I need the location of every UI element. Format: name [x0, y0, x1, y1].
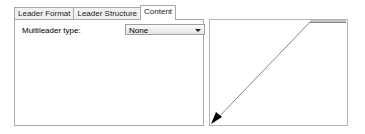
content-tab-panel: Multileader type: None — [14, 19, 204, 126]
multileader-type-select[interactable]: None — [125, 24, 205, 35]
chevron-down-icon — [195, 29, 201, 32]
multileader-type-label: Multileader type: — [22, 26, 81, 35]
multileader-type-value: None — [129, 26, 148, 35]
leader-arrow-icon — [210, 20, 347, 125]
leader-preview — [209, 19, 348, 126]
tab-strip: Leader Format Leader Structure Content — [14, 6, 175, 20]
tab-content[interactable]: Content — [140, 5, 176, 20]
